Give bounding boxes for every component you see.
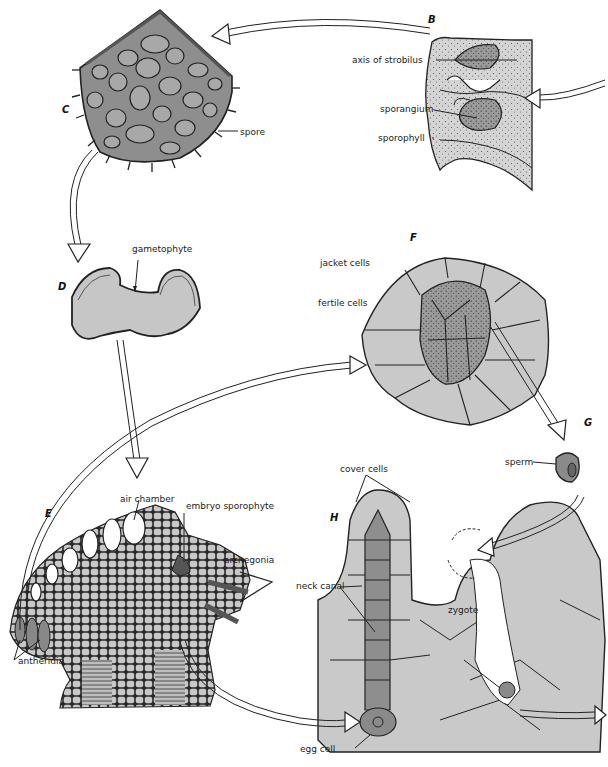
strobilus-illustration bbox=[426, 38, 532, 191]
antheridium-illustration bbox=[362, 258, 549, 425]
label-sporophyll: sporophyll bbox=[378, 133, 425, 143]
thallus-illustration bbox=[10, 500, 250, 708]
label-jacket-cells: jacket cells bbox=[320, 258, 370, 268]
label-spore: spore bbox=[240, 127, 265, 137]
panel-letter-g: G bbox=[584, 417, 592, 428]
label-gametophyte: gametophyte bbox=[132, 244, 192, 254]
label-fertile-cells: fertile cells bbox=[318, 298, 368, 308]
label-axis-of-strobilus: axis of strobilus bbox=[352, 55, 423, 65]
panel-letter-b: B bbox=[428, 14, 436, 25]
panel-letter-d: D bbox=[58, 281, 66, 292]
label-zygote: zygote bbox=[448, 605, 478, 615]
label-embryo-sporophyte: embryo sporophyte bbox=[186, 501, 274, 511]
label-archegonia: archegonia bbox=[224, 555, 274, 565]
label-cover-cells: cover cells bbox=[340, 464, 388, 474]
label-air-chamber: air chamber bbox=[120, 494, 174, 504]
label-sporangium: sporangium bbox=[380, 104, 434, 114]
label-neck-canal: neck canal bbox=[296, 581, 344, 591]
label-sperm: sperm bbox=[505, 457, 533, 467]
gametophyte-illustration bbox=[72, 260, 200, 339]
sperm-illustration bbox=[533, 453, 579, 482]
panel-letter-h: H bbox=[330, 512, 338, 523]
panel-letter-c: C bbox=[62, 104, 69, 115]
label-antheridia: antheridia bbox=[18, 656, 64, 666]
life-cycle-diagram bbox=[0, 0, 608, 767]
label-egg-cell: egg cell bbox=[300, 744, 335, 754]
panel-letter-e: E bbox=[45, 508, 52, 519]
panel-letter-f: F bbox=[410, 232, 417, 243]
